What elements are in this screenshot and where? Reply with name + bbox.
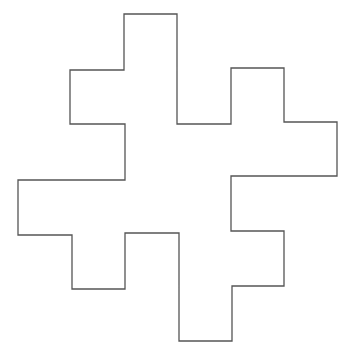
polyomino-outline bbox=[18, 14, 337, 341]
diagram-canvas bbox=[0, 0, 352, 356]
shape-svg bbox=[0, 0, 352, 356]
